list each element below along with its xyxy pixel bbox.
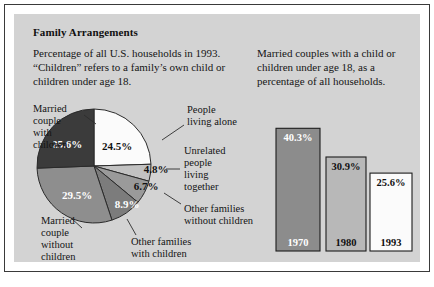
pie-value-other-families-without-children: 6.7%	[134, 180, 159, 192]
leader-line-people-living-alone	[162, 125, 184, 140]
bar-year-1980: 1980	[336, 237, 357, 248]
svg-text:people: people	[184, 157, 212, 168]
pie-value-married-couple-without-children: 29.5%	[62, 189, 92, 201]
svg-text:together: together	[184, 181, 219, 192]
svg-text:living alone: living alone	[187, 116, 237, 127]
pie-chart: 24.5% 25.6% 29.5% 4.8% 6.7% 8.9% People …	[14, 88, 264, 263]
pie-label-other-families-without-children: Other families without children	[184, 203, 254, 226]
pie-label-people-living-alone: People living alone	[187, 104, 237, 127]
svg-text:with: with	[33, 127, 52, 138]
pie-slice-people-living-alone	[94, 109, 151, 166]
leader-line-other-with	[127, 219, 136, 235]
pie-chart-svg: 24.5% 25.6% 29.5% 4.8% 6.7% 8.9% People …	[14, 88, 264, 263]
svg-text:couple: couple	[33, 115, 61, 126]
svg-text:living: living	[184, 169, 209, 180]
pie-value-people-living-alone: 24.5%	[102, 140, 132, 152]
bar-group-1980: 30.9% 1980	[326, 157, 366, 251]
svg-text:Married: Married	[41, 215, 76, 226]
bar-value-1980: 30.9%	[332, 161, 361, 172]
svg-text:children: children	[41, 251, 76, 262]
svg-text:Unrelated: Unrelated	[184, 145, 226, 156]
svg-text:with children: with children	[131, 248, 187, 259]
pie-value-unrelated-people-living-together: 4.8%	[144, 163, 169, 175]
pie-value-other-families-with-children: 8.9%	[115, 198, 140, 210]
svg-text:without children: without children	[184, 215, 254, 226]
bar-group-1993: 25.6% 1993	[370, 173, 412, 251]
bar-chart: 40.3% 1970 30.9% 1980 25.6% 1993	[264, 88, 420, 263]
pie-label-other-families-with-children: Other families with children	[131, 236, 191, 259]
pie-label-married-couple-without-children: Married couple without children	[41, 215, 76, 262]
bar-group-1970: 40.3% 1970	[276, 128, 320, 251]
svg-text:without: without	[41, 239, 73, 250]
bar-year-1993: 1993	[381, 237, 402, 248]
bar-chart-svg: 40.3% 1970 30.9% 1980 25.6% 1993	[264, 88, 420, 263]
bar-value-1993: 25.6%	[377, 177, 406, 188]
svg-text:People: People	[187, 104, 216, 115]
svg-text:Other families: Other families	[131, 236, 191, 247]
infographic-panel: Family Arrangements Percentage of all U.…	[14, 14, 420, 262]
bar-value-1970: 40.3%	[284, 132, 313, 143]
bar-1970	[276, 128, 320, 251]
intro-paragraph: Percentage of all U.S. households in 199…	[33, 46, 247, 89]
bar-year-1970: 1970	[288, 237, 309, 248]
infographic-frame: Family Arrangements Percentage of all U.…	[4, 4, 430, 272]
bar-chart-caption: Married couples with a child or children…	[257, 46, 412, 89]
leader-line-other-without	[164, 193, 181, 204]
svg-text:Other families: Other families	[184, 203, 244, 214]
svg-text:Married: Married	[33, 103, 68, 114]
svg-text:couple: couple	[41, 227, 69, 238]
svg-text:children: children	[33, 139, 68, 150]
pie-label-unrelated-people-living-together: Unrelated people living together	[184, 145, 226, 192]
page-title: Family Arrangements	[33, 26, 138, 38]
